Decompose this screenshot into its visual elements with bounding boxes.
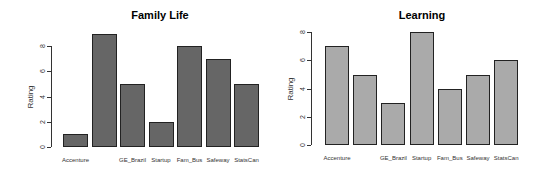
y-tick — [307, 60, 311, 61]
y-tick-label: 8 — [299, 30, 306, 34]
y-tick-label: 0 — [299, 143, 306, 147]
y-tick-label: 2 — [299, 115, 306, 119]
y-tick — [47, 122, 51, 123]
bar — [92, 34, 117, 147]
x-tick-label: Accenture — [62, 157, 89, 163]
bar — [177, 46, 202, 147]
y-tick-label: 6 — [299, 58, 306, 62]
y-axis-line — [311, 32, 312, 145]
y-tick — [47, 71, 51, 72]
x-tick-label: StatsCan — [494, 155, 519, 161]
bar — [206, 59, 231, 147]
bar — [353, 75, 377, 146]
y-tick — [307, 89, 311, 90]
y-axis-label: Rating — [26, 85, 35, 108]
bar — [466, 75, 490, 146]
x-tick-label: Fam_Bus — [177, 157, 203, 163]
bar — [63, 134, 88, 147]
y-tick-label: 0 — [39, 145, 46, 149]
y-tick-label: 2 — [39, 120, 46, 124]
bar — [494, 60, 518, 145]
y-tick — [47, 97, 51, 98]
x-tick-label: Startup — [151, 157, 170, 163]
x-tick-label: GE_Brazil — [119, 157, 146, 163]
bar — [234, 84, 259, 147]
y-tick — [307, 145, 311, 146]
bar — [381, 103, 405, 145]
bar — [120, 84, 145, 147]
y-tick-label: 4 — [39, 95, 46, 99]
bar — [325, 46, 349, 145]
x-tick-label: Fam_Bus — [437, 155, 463, 161]
y-tick-label: 8 — [39, 44, 46, 48]
chart-title: Learning — [399, 9, 445, 21]
y-tick — [307, 32, 311, 33]
bar — [410, 32, 434, 145]
y-axis-line — [51, 46, 52, 147]
y-tick — [47, 147, 51, 148]
bar — [438, 89, 462, 145]
x-tick-label: GE_Brazil — [380, 155, 407, 161]
y-axis-label: Rating — [286, 77, 295, 100]
x-tick-label: Safeway — [206, 157, 229, 163]
y-tick — [307, 117, 311, 118]
y-tick — [47, 46, 51, 47]
x-tick-label: Accenture — [323, 155, 350, 161]
x-tick-label: Startup — [412, 155, 431, 161]
y-tick-label: 4 — [299, 87, 306, 91]
x-tick-label: StatsCan — [234, 157, 259, 163]
y-tick-label: 6 — [39, 69, 46, 73]
bar — [149, 122, 174, 147]
x-tick-label: Safeway — [466, 155, 489, 161]
chart-title: Family Life — [131, 9, 188, 21]
